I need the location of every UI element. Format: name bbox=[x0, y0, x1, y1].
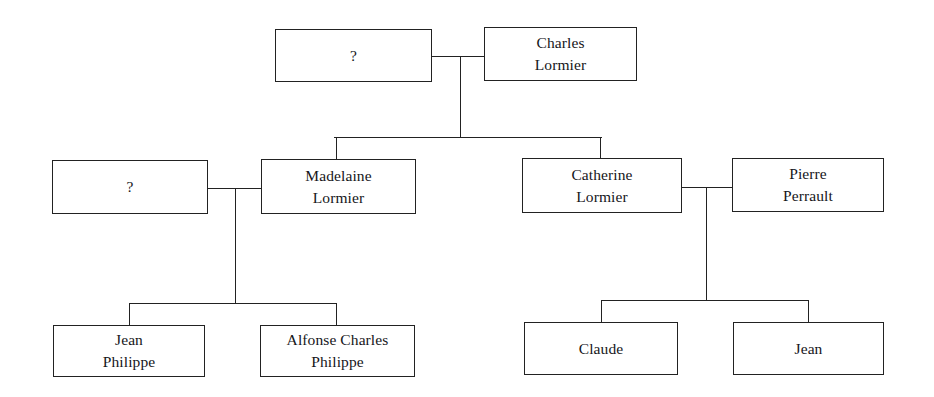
node-gen1-unknown[interactable]: ? bbox=[275, 29, 432, 82]
node-gen1-charles-lormier[interactable]: Charles Lormier bbox=[484, 27, 637, 81]
node-label-line1: Jean bbox=[795, 338, 823, 360]
node-label-line1: Catherine bbox=[571, 164, 632, 186]
node-label-line2: Lormier bbox=[535, 54, 586, 76]
node-label-line1: Jean bbox=[115, 329, 143, 351]
descent-drop-gen1 bbox=[460, 56, 461, 137]
marriage-link-gen1 bbox=[432, 56, 484, 57]
sibling-bar-gen3-left bbox=[129, 303, 337, 304]
descent-drop-madelaine-union bbox=[235, 188, 236, 303]
node-gen2-pierre-perrault[interactable]: Pierre Perrault bbox=[732, 158, 884, 212]
sibling-drop-alfonse bbox=[336, 303, 337, 325]
sibling-bar-gen2 bbox=[334, 137, 602, 138]
node-label-line1: ? bbox=[127, 176, 134, 198]
node-gen2-catherine-lormier[interactable]: Catherine Lormier bbox=[522, 158, 682, 213]
node-label-line1: ? bbox=[350, 45, 357, 67]
node-label-line1: Pierre bbox=[789, 163, 827, 185]
node-gen3-claude[interactable]: Claude bbox=[524, 322, 678, 375]
sibling-drop-madelaine bbox=[336, 137, 337, 159]
node-label-line2: Philippe bbox=[311, 351, 363, 373]
node-gen3-jean-philippe[interactable]: Jean Philippe bbox=[53, 325, 205, 377]
sibling-bar-gen3-right bbox=[601, 300, 809, 301]
node-label-line2: Lormier bbox=[313, 187, 364, 209]
node-gen3-jean[interactable]: Jean bbox=[733, 322, 884, 375]
node-label-line1: Claude bbox=[579, 338, 624, 360]
node-label-line1: Charles bbox=[536, 32, 584, 54]
node-label-line1: Alfonse Charles bbox=[287, 329, 389, 351]
sibling-drop-claude bbox=[601, 300, 602, 322]
family-tree-diagram: ? Charles Lormier ? Madelaine Lormier Ca… bbox=[0, 0, 934, 397]
node-gen2-unknown[interactable]: ? bbox=[52, 160, 208, 214]
sibling-drop-catherine bbox=[600, 137, 601, 158]
descent-drop-catherine-union bbox=[706, 187, 707, 300]
node-label-line1: Madelaine bbox=[305, 165, 371, 187]
node-label-line2: Perrault bbox=[783, 185, 833, 207]
node-label-line2: Philippe bbox=[103, 351, 155, 373]
sibling-drop-jean-philippe bbox=[129, 303, 130, 325]
sibling-drop-jean bbox=[808, 300, 809, 322]
node-gen3-alfonse-charles-philippe[interactable]: Alfonse Charles Philippe bbox=[260, 325, 415, 377]
node-gen2-madelaine-lormier[interactable]: Madelaine Lormier bbox=[261, 159, 416, 214]
node-label-line2: Lormier bbox=[576, 186, 627, 208]
